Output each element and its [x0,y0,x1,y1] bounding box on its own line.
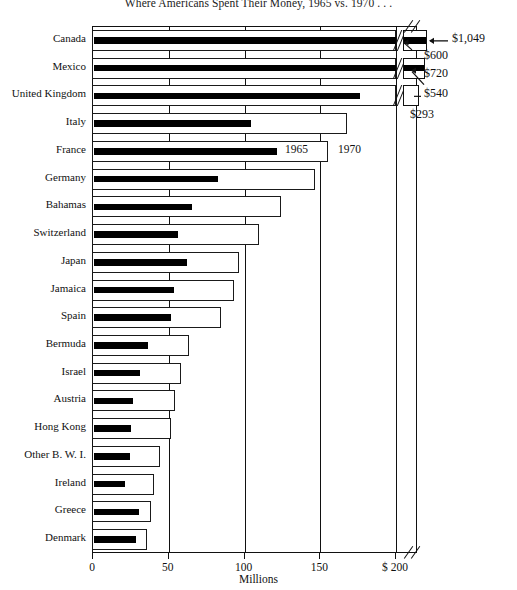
callout-600: $600 [424,48,448,63]
bar-1965-italy [94,120,252,127]
y-axis-label-bermuda: Bermuda [0,337,86,349]
callout-720: $720 [424,66,448,81]
callout-1049: $1,049 [452,31,485,46]
over-scale-cap-1965 [404,65,424,72]
callout-540: $540 [424,86,448,101]
x-tick-label-200: $ 200 [365,561,425,573]
axis-break-bottom [404,545,426,559]
y-axis-label-israel: Israel [0,365,86,377]
x-tick-label-150: 150 [289,561,349,573]
y-axis-label-switzerland: Switzerland [0,226,86,238]
bar-1965-germany [94,176,218,183]
y-axis-label-denmark: Denmark [0,531,86,543]
y-axis-label-japan: Japan [0,254,86,266]
x-axis-title: Millions [0,573,517,585]
y-axis-label-italy: Italy [0,115,86,127]
y-axis-label-greece: Greece [0,503,86,515]
bar-1965-jamaica [94,287,174,294]
x-tick-label-50: 50 [138,561,198,573]
bar-1965-denmark [94,536,136,543]
bar-1965-greece [94,509,139,516]
bar-1965-bahamas [94,204,192,211]
axis-break-top [404,19,426,33]
bar-1965-canada [94,37,396,44]
x-tick-150 [319,553,320,559]
x-tick-label-0: 0 [62,561,122,573]
bar-1965-hong-kong [94,425,132,432]
y-axis-label-france: France [0,143,86,155]
x-tick-200 [395,553,396,559]
x-tick-50 [168,553,169,559]
y-axis-label-germany: Germany [0,171,86,183]
bar-1965-other-b-w-i- [94,453,130,460]
y-axis-label-other-b-w-i-: Other B. W. I. [0,448,86,460]
bar-1965-spain [94,314,171,321]
x-tick-100 [244,553,245,559]
bar-1965-ireland [94,481,126,488]
y-axis-label-hong-kong: Hong Kong [0,420,86,432]
bar-1965-united-kingdom [94,93,361,100]
callout-293: $293 [410,107,434,122]
bar-1965-switzerland [94,231,179,238]
chart-container: Where Americans Spent Their Money, 1965 … [0,0,517,590]
y-axis-label-bahamas: Bahamas [0,198,86,210]
y-axis-label-austria: Austria [0,392,86,404]
chart-title: Where Americans Spent Their Money, 1965 … [0,0,517,9]
bar-1965-bermuda [94,342,149,349]
x-tick-0 [92,553,93,559]
bar-1965-japan [94,259,188,266]
over-scale-cap-1965 [404,37,426,44]
y-axis-label-united-kingdom: United Kingdom [0,87,86,99]
legend-label-1965: 1965 [285,143,308,155]
over-scale-cap [403,85,419,106]
x-tick-label-100: 100 [214,561,274,573]
bar-1965-mexico [94,65,396,72]
y-axis-label-mexico: Mexico [0,60,86,72]
y-axis-label-ireland: Ireland [0,476,86,488]
legend-label-1970: 1970 [338,143,361,155]
y-axis-label-spain: Spain [0,309,86,321]
bar-1965-israel [94,370,141,377]
y-axis-label-canada: Canada [0,32,86,44]
y-axis-label-jamaica: Jamaica [0,282,86,294]
bar-1965-austria [94,398,133,405]
bar-1965-france [94,148,277,155]
